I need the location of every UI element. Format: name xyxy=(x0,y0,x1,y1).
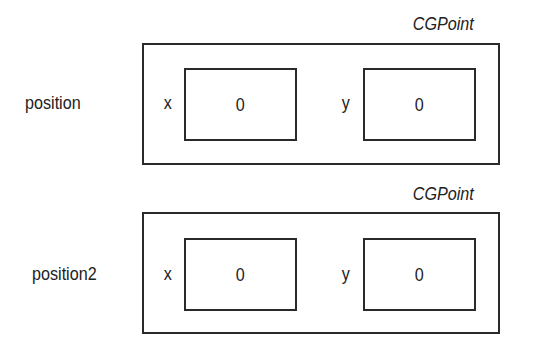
type-label: CGPoint xyxy=(413,183,474,205)
field-value-x: 0 xyxy=(236,94,245,116)
type-label: CGPoint xyxy=(413,13,474,35)
field-label-x: x xyxy=(164,263,172,285)
field-box-x: 0 xyxy=(184,238,297,311)
struct-position2: CGPoint position2 x 0 y 0 xyxy=(0,176,547,352)
field-box-y: 0 xyxy=(363,68,476,141)
variable-label: position xyxy=(25,92,81,114)
field-label-y: y xyxy=(342,92,350,114)
struct-position: CGPoint position x 0 y 0 xyxy=(0,0,547,176)
field-label-x: x xyxy=(164,92,172,114)
variable-label: position2 xyxy=(32,263,97,285)
field-label-y: y xyxy=(342,263,350,285)
field-value-y: 0 xyxy=(415,264,424,286)
field-box-x: 0 xyxy=(184,68,297,141)
field-value-y: 0 xyxy=(415,94,424,116)
field-value-x: 0 xyxy=(236,264,245,286)
field-box-y: 0 xyxy=(363,238,476,311)
